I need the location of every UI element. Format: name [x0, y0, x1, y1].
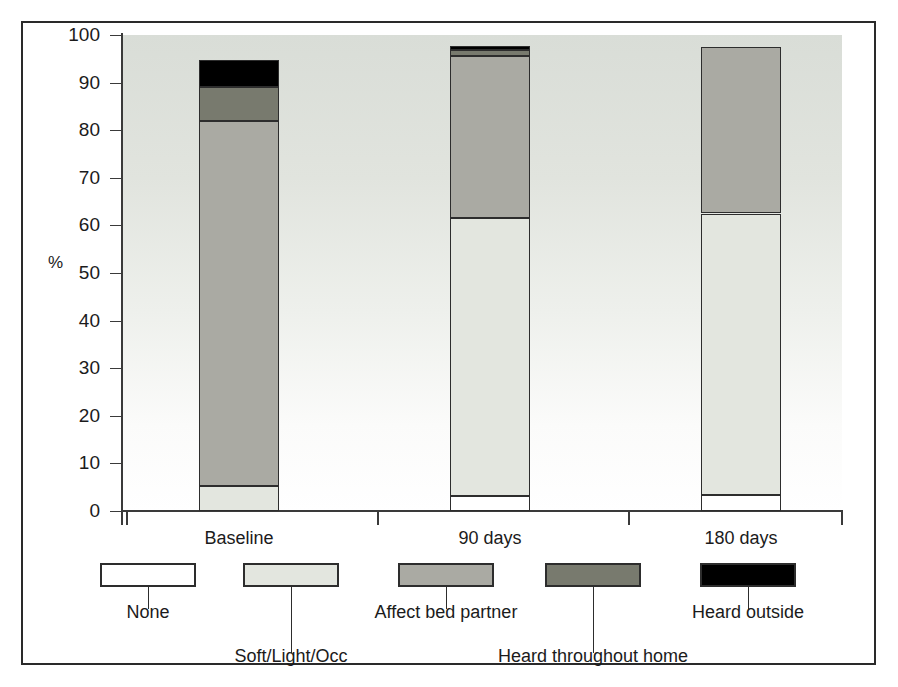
- legend-swatch-soft-light-occ[interactable]: [243, 563, 339, 587]
- legend-swatch-heard-outside[interactable]: [700, 563, 796, 587]
- chart-legend: NoneSoft/Light/OccAffect bed partnerHear…: [0, 0, 898, 687]
- legend-label-heard-outside: Heard outside: [628, 603, 868, 621]
- legend-leader-line: [291, 587, 292, 653]
- legend-label-affect-bed-partner: Affect bed partner: [326, 603, 566, 621]
- legend-swatch-heard-throughout-home[interactable]: [545, 563, 641, 587]
- legend-swatch-affect-bed-partner[interactable]: [398, 563, 494, 587]
- legend-label-heard-throughout-home: Heard throughout home: [473, 647, 713, 665]
- legend-label-soft-light-occ: Soft/Light/Occ: [171, 647, 411, 665]
- legend-swatch-none[interactable]: [100, 563, 196, 587]
- legend-leader-line: [593, 587, 594, 653]
- chart-page: % 1009080706050403020100 Baseline90 days…: [0, 0, 898, 687]
- legend-label-none: None: [28, 603, 268, 621]
